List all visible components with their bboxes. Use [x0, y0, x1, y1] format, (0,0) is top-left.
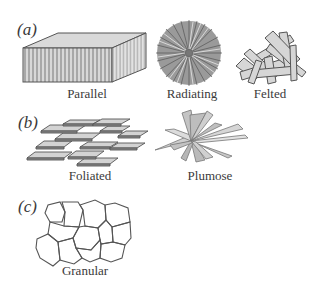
radiating-sphere-icon — [156, 20, 222, 86]
granular-grains-icon — [36, 200, 131, 266]
plumose-blades-icon — [155, 110, 248, 162]
foliated-plates-icon — [27, 119, 148, 166]
crystal-habits-figure — [0, 0, 327, 294]
parallel-block-icon — [23, 33, 146, 82]
felted-laths-icon — [236, 31, 306, 84]
